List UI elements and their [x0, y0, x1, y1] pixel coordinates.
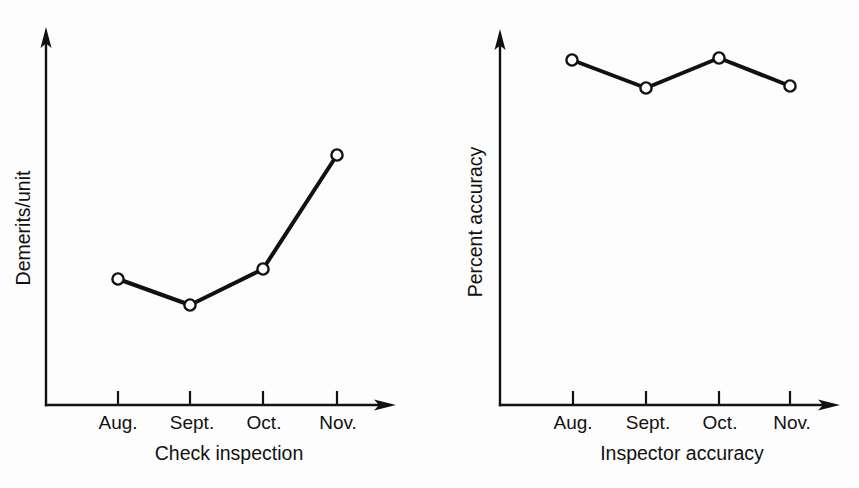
data-point-oct	[257, 263, 268, 274]
x-tick-label-oct: Oct.	[703, 412, 738, 433]
x-tick-label-nov: Nov.	[773, 412, 811, 433]
check-inspection-plot: Aug. Sept. Oct. Nov. Check inspection De…	[0, 0, 430, 488]
accuracy-series-line	[572, 58, 790, 88]
y-axis-title: Demerits/unit	[12, 170, 34, 285]
data-point-nov	[331, 149, 342, 160]
data-point-aug	[112, 273, 123, 284]
data-point-aug	[566, 54, 577, 65]
x-tick-label-aug: Aug.	[98, 412, 137, 433]
x-axis-caption: Inspector accuracy	[600, 442, 764, 464]
x-tick-label-nov: Nov.	[319, 412, 357, 433]
inspector-accuracy-plot: Aug. Sept. Oct. Nov. Inspector accuracy …	[430, 0, 859, 488]
data-point-sept	[184, 299, 195, 310]
x-tick-label-oct: Oct.	[247, 412, 282, 433]
data-point-oct	[713, 52, 724, 63]
figure-container: Aug. Sept. Oct. Nov. Check inspection De…	[0, 0, 859, 488]
demerits-series-line	[118, 155, 337, 305]
y-axis-title: Percent accuracy	[464, 146, 486, 297]
x-tick-label-sept: Sept.	[626, 412, 670, 433]
inspector-accuracy-chart: Aug. Sept. Oct. Nov. Inspector accuracy …	[430, 0, 859, 488]
x-axis-caption: Check inspection	[155, 442, 304, 464]
check-inspection-chart: Aug. Sept. Oct. Nov. Check inspection De…	[0, 0, 430, 488]
x-tick-label-sept: Sept.	[170, 412, 214, 433]
data-point-sept	[640, 82, 651, 93]
data-point-nov	[784, 80, 795, 91]
x-tick-label-aug: Aug.	[553, 412, 592, 433]
